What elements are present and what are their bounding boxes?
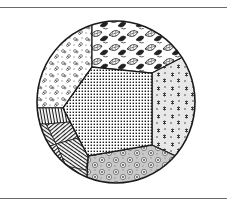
quilt-illustration: [0, 0, 227, 202]
